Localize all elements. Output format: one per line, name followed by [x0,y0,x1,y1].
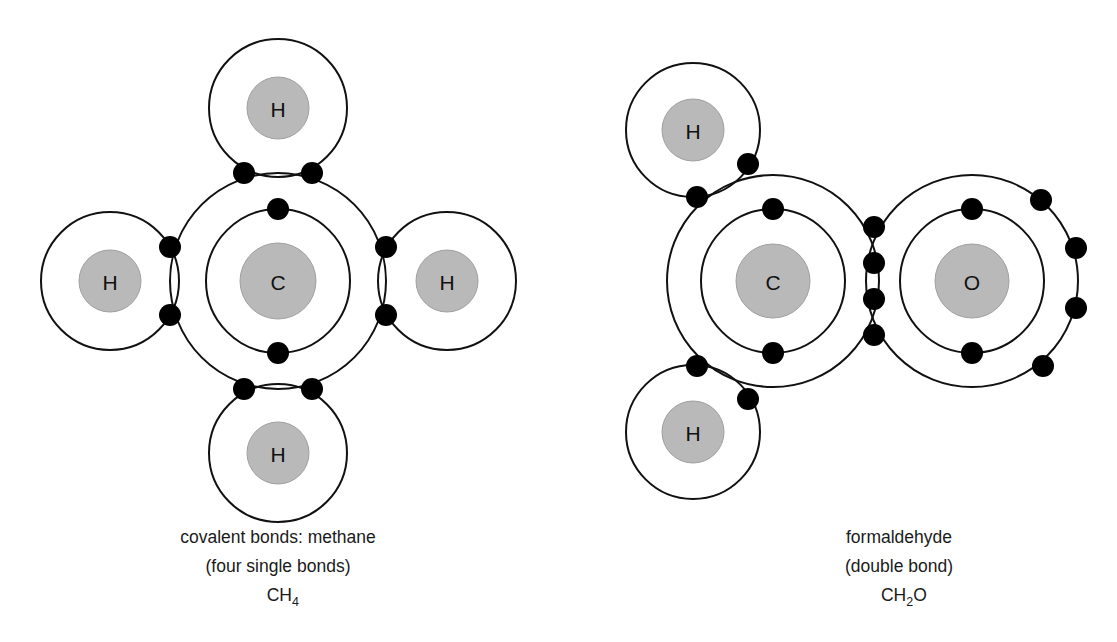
methane-bond-right-electron-1 [375,236,397,258]
formaldehyde-formula-tail: O [913,585,927,605]
formaldehyde-h-upper-nucleus-label: H [685,120,700,143]
formaldehyde-o-lone-electron-3 [1065,297,1087,319]
methane-h-top-nucleus-label: H [270,98,285,121]
methane-h-left-nucleus-label: H [102,271,117,294]
methane-bond-left-electron-1 [159,236,181,258]
formaldehyde-double-bond-electron-1 [863,216,885,238]
formaldehyde-h-lower-nucleus-label: H [685,422,700,445]
formaldehyde-o-lone-electron-4 [1032,355,1054,377]
methane-formula-main: CH [267,585,292,605]
methane-bond-top-electron-2 [301,162,323,184]
formaldehyde-caption-line1: formaldehyde [846,527,952,547]
formaldehyde-o-inner-electron-bottom [961,342,983,364]
methane-bond-bottom-electron-1 [233,378,255,400]
formaldehyde-c-inner-electron-bottom [762,342,784,364]
formaldehyde-caption-line2: (double bond) [845,556,953,576]
formaldehyde-formula-subscript: 2 [906,595,913,609]
formaldehyde-formula-main: CH [881,585,906,605]
formaldehyde-c-inner-electron-top [762,198,784,220]
formaldehyde-o-nucleus-label: O [964,271,980,294]
methane-h-bottom-nucleus-label: H [270,443,285,466]
methane-bond-top-electron-1 [233,162,255,184]
formaldehyde-bond-lower-electron-2 [737,388,759,410]
methane-c-inner-electron-top [267,198,289,220]
methane-bond-right-electron-2 [375,304,397,326]
molecule-diagram-canvas: C H H H H cov [0,0,1117,642]
methane-h-right-nucleus-label: H [439,271,454,294]
formaldehyde-bond-upper-electron-2 [686,186,708,208]
formaldehyde-o-lone-electron-2 [1065,237,1087,259]
formaldehyde-double-bond-electron-4 [863,324,885,346]
formaldehyde-o-lone-electron-1 [1030,189,1052,211]
methane-bond-bottom-electron-2 [301,378,323,400]
formaldehyde-bond-upper-electron-1 [737,153,759,175]
methane-formula-subscript: 4 [292,595,299,609]
methane-caption-line1: covalent bonds: methane [180,527,376,547]
methane-bond-left-electron-2 [159,304,181,326]
formaldehyde-double-bond-electron-2 [863,252,885,274]
figure-root: C H H H H cov [0,0,1117,642]
methane-caption-line2: (four single bonds) [206,556,351,576]
formaldehyde-o-inner-electron-top [961,198,983,220]
formaldehyde-c-nucleus-label: C [765,271,780,294]
formaldehyde-double-bond-electron-3 [863,288,885,310]
methane-c-inner-electron-bottom [267,342,289,364]
methane-c-nucleus-label: C [270,271,285,294]
formaldehyde-bond-lower-electron-1 [686,355,708,377]
